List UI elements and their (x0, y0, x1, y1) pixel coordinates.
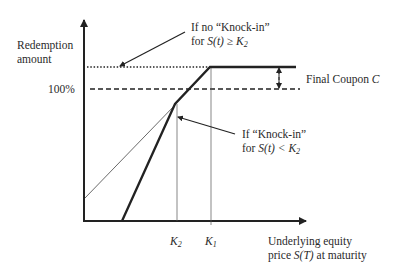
final-coupon-label: Final Coupon C (306, 72, 379, 86)
no-knockin-payoff-line (85, 104, 176, 198)
annotation-subscript: 2 (296, 147, 300, 156)
x-axis-label: Underlying equity price S(T) at maturity (268, 234, 367, 262)
no-knockin-annotation-line1: If no “Knock-in” (191, 20, 270, 34)
k1-tick-label: K1 (205, 234, 217, 252)
hundred-percent-label: 100% (48, 82, 75, 96)
y-axis-label-line2: amount (17, 52, 73, 66)
x-axis-label-suffix: at maturity (314, 249, 367, 261)
x-axis-label-line1: Underlying equity (268, 234, 367, 248)
k2-tick-label: K2 (170, 234, 182, 252)
annotation-prefix: for (191, 35, 207, 47)
annotation-prefix: for (242, 142, 258, 154)
y-axis-label-line1: Redemption (17, 38, 73, 52)
final-coupon-symbol: C (372, 73, 380, 85)
annotation-expression: S(t) ≥ K (207, 35, 243, 47)
x-axis-label-expression: S(T) (294, 249, 314, 261)
annotation-expression: S(t) < K (258, 142, 296, 154)
knockin-pointer-arrow (178, 117, 235, 134)
k2-symbol: K (170, 235, 178, 247)
x-axis-label-line2: price S(T) at maturity (268, 248, 367, 262)
k1-symbol: K (205, 235, 213, 247)
x-axis-label-prefix: price (268, 249, 294, 261)
knockin-annotation-line2: for S(t) < K2 (242, 141, 306, 159)
final-coupon-text: Final Coupon (306, 73, 372, 85)
no-knockin-pointer-arrow (120, 32, 185, 66)
no-knockin-annotation: If no “Knock-in” for S(t) ≥ K2 (191, 20, 270, 52)
k1-subscript: 1 (213, 240, 217, 249)
y-axis-label: Redemption amount (17, 38, 73, 66)
annotation-subscript: 2 (244, 40, 248, 49)
knockin-annotation: If “Knock-in” for S(t) < K2 (242, 127, 306, 159)
k2-subscript: 2 (178, 240, 182, 249)
no-knockin-annotation-line2: for S(t) ≥ K2 (191, 34, 270, 52)
knockin-annotation-line1: If “Knock-in” (242, 127, 306, 141)
